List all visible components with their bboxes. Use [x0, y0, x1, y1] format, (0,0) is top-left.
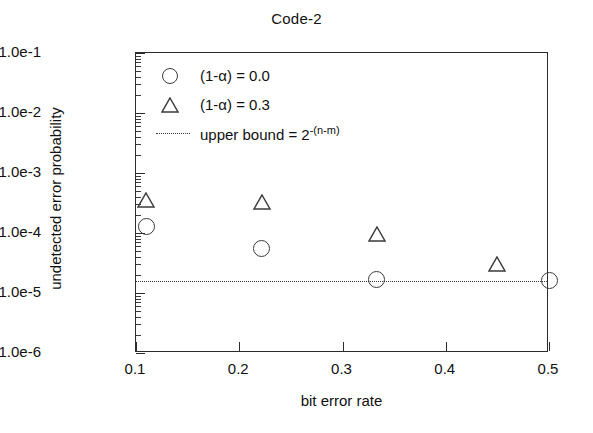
y-tick-minor: [136, 264, 141, 265]
y-tick-minor: [136, 77, 141, 78]
y-tick-label: 1.0e-4: [0, 224, 41, 239]
y-tick-major: [136, 353, 145, 354]
y-tick-minor: [136, 122, 141, 123]
y-tick-label: 1.0e-1: [0, 44, 41, 59]
y-tick-minor: [136, 296, 141, 297]
legend-dotted-line-icon: [154, 122, 200, 146]
x-tick-label: 0.4: [415, 360, 475, 377]
legend-item: upper bound = 2-(n-m): [154, 119, 434, 148]
x-tick-label: 0.2: [208, 360, 268, 377]
y-tick-label: 1.0e-5: [0, 284, 41, 299]
y-tick-minor: [136, 191, 141, 192]
y-tick-minor: [136, 242, 141, 243]
y-tick-minor: [136, 311, 141, 312]
legend-label-main: upper bound = 2: [200, 126, 310, 143]
legend-triangle-icon: [154, 93, 200, 117]
y-tick-minor: [136, 71, 141, 72]
x-tick-major: [549, 342, 550, 351]
upper-bound-line: [136, 281, 547, 282]
y-tick-label: 1.0e-3: [0, 164, 41, 179]
y-tick-minor: [136, 246, 141, 247]
chart-legend: (1-α) = 0.0(1-α) = 0.3upper bound = 2-(n…: [154, 61, 434, 148]
y-tick-minor: [136, 204, 141, 205]
y-tick-minor: [136, 215, 141, 216]
y-tick-minor: [136, 239, 141, 240]
chart-title: Code-2: [0, 10, 593, 27]
legend-item: (1-α) = 0.3: [154, 90, 434, 119]
x-tick-label: 0.1: [105, 360, 165, 377]
x-tick-major: [136, 342, 137, 351]
y-tick-minor: [136, 302, 141, 303]
plot-area: (1-α) = 0.0(1-α) = 0.3upper bound = 2-(n…: [135, 52, 548, 352]
y-tick-label: 1.0e-6: [0, 344, 41, 359]
y-tick-minor: [136, 257, 141, 258]
data-point-circle: [253, 240, 270, 257]
y-tick-major: [136, 173, 145, 174]
y-tick-minor: [136, 84, 141, 85]
legend-label: (1-α) = 0.0: [200, 67, 270, 84]
x-tick-major: [446, 342, 447, 351]
y-tick-minor: [136, 335, 141, 336]
y-tick-minor: [136, 66, 141, 67]
y-tick-minor: [136, 131, 141, 132]
y-tick-major: [136, 233, 145, 234]
y-tick-major: [136, 113, 145, 114]
chart-figure: Code-2 undetected error probability bit …: [0, 0, 593, 433]
y-tick-major: [136, 53, 145, 54]
x-tick-major: [239, 342, 240, 351]
y-tick-minor: [136, 236, 141, 237]
y-tick-minor: [136, 299, 141, 300]
legend-circle-icon: [154, 64, 200, 88]
y-tick-minor: [136, 251, 141, 252]
y-tick-minor: [136, 119, 141, 120]
x-tick-label: 0.3: [312, 360, 372, 377]
circle-icon: [162, 68, 178, 84]
y-tick-minor: [136, 155, 141, 156]
x-tick-label: 0.5: [518, 360, 578, 377]
y-tick-minor: [136, 275, 141, 276]
y-tick-minor: [136, 137, 141, 138]
legend-label: upper bound = 2-(n-m): [200, 124, 340, 143]
legend-label-exponent: -(n-m): [310, 124, 340, 136]
y-tick-minor: [136, 95, 141, 96]
y-tick-minor: [136, 144, 141, 145]
data-point-circle: [368, 271, 385, 288]
y-tick-minor: [136, 306, 141, 307]
y-tick-major: [136, 293, 145, 294]
y-tick-minor: [136, 116, 141, 117]
y-tick-minor: [136, 324, 141, 325]
y-tick-minor: [136, 197, 141, 198]
y-tick-minor: [136, 62, 141, 63]
legend-item: (1-α) = 0.0: [154, 61, 434, 90]
dotted-line-icon: [156, 133, 190, 134]
x-axis-title: bit error rate: [135, 392, 548, 409]
y-tick-minor: [136, 317, 141, 318]
y-tick-minor: [136, 56, 141, 57]
y-tick-minor: [136, 126, 141, 127]
y-tick-minor: [136, 176, 141, 177]
y-axis-title: undetected error probability: [47, 49, 64, 349]
x-tick-major: [343, 342, 344, 351]
y-tick-minor: [136, 186, 141, 187]
y-tick-minor: [136, 182, 141, 183]
y-tick-label: 1.0e-2: [0, 104, 41, 119]
y-tick-minor: [136, 179, 141, 180]
legend-label: (1-α) = 0.3: [200, 96, 270, 113]
y-tick-minor: [136, 59, 141, 60]
